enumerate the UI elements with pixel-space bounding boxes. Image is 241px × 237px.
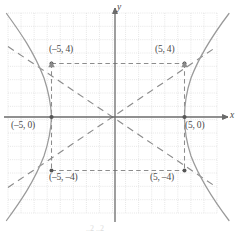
label-point-pos5-4: (5, 4) xyxy=(155,44,174,54)
x-axis-arrow xyxy=(223,115,229,120)
axes xyxy=(4,8,228,222)
point-pos5-n4 xyxy=(183,169,187,173)
grid-lines xyxy=(8,13,217,213)
label-point-neg5-4: (–5, 4) xyxy=(49,44,73,54)
equation-caption-fragment: ..2 ..2 xyxy=(86,224,104,233)
label-point-pos5-0: (5, 0) xyxy=(185,120,204,130)
graph-canvas xyxy=(0,0,241,237)
label-point-pos5-n4: (5, –4) xyxy=(150,172,174,182)
label-point-neg5-0: (–5, 0) xyxy=(11,120,35,130)
x-axis-label: x xyxy=(230,110,234,120)
point-neg5-0 xyxy=(49,115,53,119)
hyperbola-figure: (–5, 4) (5, 4) (–5, 0) (5, 0) (–5, –4) (… xyxy=(0,0,241,237)
arrowhead-pos5-4 xyxy=(181,61,187,67)
arrowhead-neg5-4 xyxy=(48,61,54,67)
label-point-neg5-n4: (–5, –4) xyxy=(49,172,77,182)
y-axis-label: y xyxy=(117,2,121,12)
point-pos5-0 xyxy=(182,115,186,119)
